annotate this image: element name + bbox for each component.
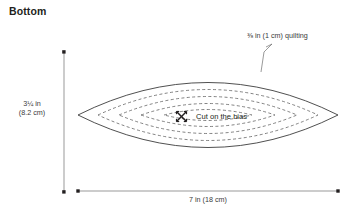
height-dimension-label: 3¼ in (8.2 cm) [8, 99, 56, 117]
width-dimension-label: 7 in (18 cm) [178, 195, 238, 204]
bias-cross-icon [175, 110, 188, 123]
quilting-annotation-label: ⅜ in (1 cm) quilting [247, 31, 308, 40]
height-dimension-label-metric: (8.2 cm) [8, 108, 56, 117]
height-dimension-endpoint-top [62, 50, 65, 53]
width-dimension-endpoint-right [336, 189, 339, 192]
width-dimension-endpoint-left [76, 189, 79, 192]
cut-on-bias-label: Cut on the bias [196, 112, 247, 122]
height-dimension-endpoint-bottom [62, 190, 65, 193]
height-dimension-label-imperial: 3¼ in [8, 99, 56, 108]
pattern-diagram: Bottom Cut on the [0, 0, 364, 218]
quilting-leader-line [261, 44, 272, 72]
page-title: Bottom [9, 5, 46, 17]
